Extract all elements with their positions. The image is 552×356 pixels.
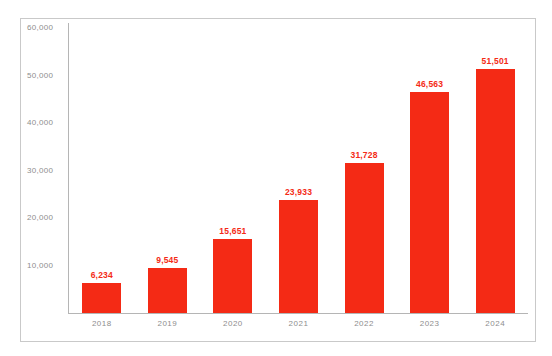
bar-chart-figure: 60,000 50,000 40,000 30,000 20,000 10,00…: [0, 0, 552, 356]
x-tick-label-2020: 2020: [200, 319, 266, 328]
x-tick-label-2018: 2018: [69, 319, 135, 328]
x-tick-label-2022: 2022: [331, 319, 397, 328]
x-axis-tick-labels: 2018 2019 2020 2021 2022 2023 2024: [69, 19, 528, 343]
x-tick-label-2019: 2019: [135, 319, 201, 328]
plot-frame: 60,000 50,000 40,000 30,000 20,000 10,00…: [20, 18, 536, 342]
x-tick-label-2021: 2021: [266, 319, 332, 328]
x-tick-label-2024: 2024: [462, 319, 528, 328]
x-tick-label-2023: 2023: [397, 319, 463, 328]
